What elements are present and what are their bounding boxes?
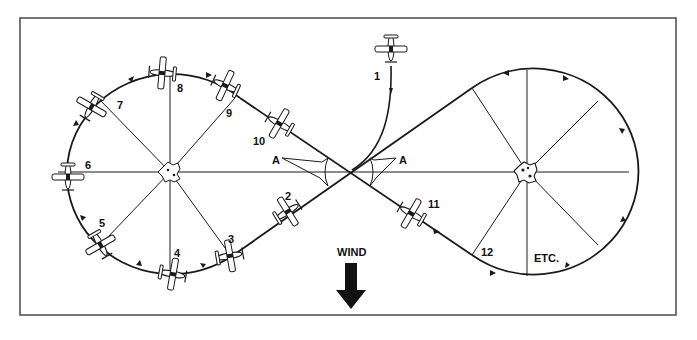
airplane-1	[375, 35, 407, 62]
airplane-11	[392, 193, 431, 234]
wind-arrow-icon	[336, 263, 366, 309]
position-label-5: 5	[99, 217, 105, 229]
position-label-4: 4	[174, 247, 181, 259]
position-label-8: 8	[177, 82, 183, 94]
airplane-10	[260, 103, 299, 144]
airplane-4	[156, 256, 188, 292]
position-label-3: 3	[228, 233, 234, 245]
angle-label-right: A	[399, 154, 407, 166]
position-label-2: 2	[285, 190, 291, 202]
airplane-8	[148, 56, 178, 90]
etc-label: ETC.	[534, 252, 559, 264]
position-label-7: 7	[117, 99, 123, 111]
airplane-9	[207, 66, 245, 106]
eights-on-pylons-diagram: 1 2 3 4 5 6 7 8 9 10 11 12 A A ETC. WIND	[0, 0, 697, 340]
position-label-6: 6	[85, 159, 91, 171]
airplane-6	[52, 163, 84, 190]
position-label-12: 12	[481, 246, 493, 258]
entry-path	[352, 66, 391, 170]
angle-label-left: A	[272, 154, 280, 166]
position-label-9: 9	[226, 107, 232, 119]
wind-label: WIND	[337, 246, 366, 258]
position-label-1: 1	[374, 70, 380, 82]
position-label-11: 11	[428, 198, 440, 210]
right-pylon	[514, 162, 537, 183]
position-label-10: 10	[253, 135, 265, 147]
left-pylon	[158, 162, 180, 182]
